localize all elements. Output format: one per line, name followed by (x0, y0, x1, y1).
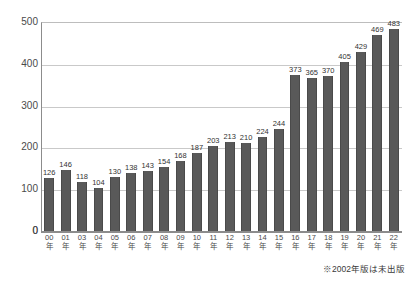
bar (323, 76, 333, 231)
chart-title (0, 0, 413, 4)
bar-value-label: 126 (37, 169, 61, 177)
bar (290, 75, 300, 231)
bar (389, 29, 399, 231)
bar-value-label: 104 (86, 179, 110, 187)
bar-value-label: 483 (382, 20, 406, 28)
bar (340, 62, 350, 231)
y-axis-tick-label: 200 (4, 142, 38, 152)
bar (225, 142, 235, 231)
y-axis-tick-label: 500 (4, 17, 38, 27)
bar-value-label: 405 (333, 53, 357, 61)
bar (274, 129, 284, 231)
bar (126, 173, 136, 231)
y-axis-tick-label: 400 (4, 59, 38, 69)
bar-value-label: 244 (267, 120, 291, 128)
chart-footnote: ※2002年版は未出版 (323, 262, 405, 274)
x-axis-tick-label: 22年 (384, 234, 404, 251)
bar (356, 52, 366, 231)
bar (176, 161, 186, 231)
bar-value-label: 224 (251, 128, 275, 136)
bar-value-label: 187 (185, 144, 209, 152)
bar (159, 167, 169, 231)
bar (241, 143, 251, 231)
bar (143, 171, 153, 231)
bar (44, 178, 54, 231)
bar-value-label: 429 (349, 43, 373, 51)
bar (192, 153, 202, 231)
bar (77, 182, 87, 231)
y-axis-origin-label: 0 (4, 226, 38, 236)
bar (208, 146, 218, 231)
y-axis-tick-label: 100 (4, 184, 38, 194)
bar (372, 35, 382, 231)
bar-chart: 01002003004005000 ※2002年版は未出版 12600年1460… (0, 0, 413, 287)
bar (110, 177, 120, 231)
bar (94, 188, 104, 231)
y-axis: 01002003004005000 (0, 0, 38, 287)
bar-value-label: 370 (316, 67, 340, 75)
y-axis-tick-label: 300 (4, 101, 38, 111)
bar-value-label: 168 (168, 152, 192, 160)
bar (307, 78, 317, 231)
bar (258, 137, 268, 231)
bar-value-label: 146 (54, 161, 78, 169)
